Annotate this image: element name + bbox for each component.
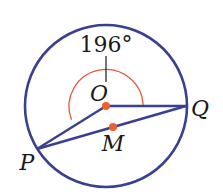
point-o-label: O xyxy=(90,81,108,106)
circle-diagram: 196° O Q P M xyxy=(0,0,223,194)
point-p-label: P xyxy=(19,150,36,175)
angle-label: 196° xyxy=(80,32,133,57)
point-q-label: Q xyxy=(191,96,209,121)
segment-op xyxy=(37,106,106,149)
point-m-label: M xyxy=(101,131,125,156)
point-m-dot xyxy=(109,123,117,131)
